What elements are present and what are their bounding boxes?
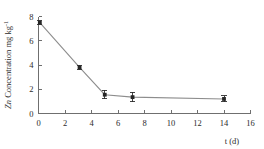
x-tick-label: 14 [220, 118, 229, 128]
x-axis-tick-labels: 0246810121416 [36, 118, 254, 128]
y-tick-label: 4 [29, 60, 34, 70]
y-tick-label: 0 [29, 109, 33, 119]
chart-plot-area: 0246810121416 02468 Zn Concentration mg … [0, 0, 264, 149]
x-axis-title-text: t (d) [225, 136, 240, 146]
data-point-marker [131, 95, 135, 99]
y-axis-title: Zn Concentration mg kg-1 [3, 21, 13, 109]
data-point-marker [78, 66, 82, 70]
data-point-marker [38, 21, 42, 25]
data-point-marker [103, 93, 107, 97]
y-axis-tick-labels: 02468 [29, 12, 34, 119]
y-axis-title-text: Zn Concentration mg kg-1 [3, 21, 13, 109]
y-tick-label: 6 [29, 36, 33, 46]
error-bars [37, 21, 226, 102]
y-tick-label: 8 [29, 12, 33, 22]
data-point-marker [222, 97, 226, 101]
series-path [40, 23, 224, 99]
x-tick-label: 0 [36, 118, 40, 128]
y-tick-label: 2 [29, 84, 33, 94]
x-tick-label: 8 [142, 118, 146, 128]
x-axis-ticks [39, 110, 251, 114]
data-series-line [40, 23, 224, 99]
x-tick-label: 10 [167, 118, 176, 128]
x-tick-label: 6 [116, 118, 120, 128]
x-axis-title: t (d) [225, 136, 240, 146]
x-tick-label: 16 [246, 118, 255, 128]
x-tick-label: 4 [89, 118, 94, 128]
y-axis-ticks [39, 17, 43, 114]
data-point-markers [38, 21, 226, 101]
x-tick-label: 12 [193, 118, 202, 128]
chart-figure: 0246810121416 02468 Zn Concentration mg … [0, 0, 264, 149]
x-tick-label: 2 [63, 118, 67, 128]
